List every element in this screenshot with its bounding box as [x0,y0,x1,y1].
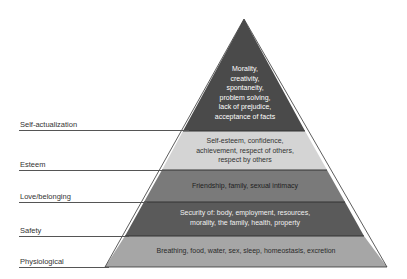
level-line-esteem [19,170,165,171]
level-line-love-belonging [19,202,147,203]
text-safety: Security of: body, employment, resources… [180,208,310,227]
text-love-belonging: Friendship, family, sexual intimacy [192,181,298,191]
text-esteem: Self-esteem, confidence, achievement, re… [196,136,294,165]
label-safety: Safety [20,226,41,235]
level-line-safety [19,236,129,237]
label-physiological: Physiological [20,257,64,266]
maslow-pyramid-diagram: Self-actualization Esteem Love/belonging… [0,0,407,279]
label-self-actualization: Self-actualization [20,120,77,129]
level-line-physiological [19,267,109,268]
text-physiological: Breathing, food, water, sex, sleep, home… [157,246,336,256]
text-self-actualization: Morality, creativity, spontaneity, probl… [215,64,275,121]
label-love-belonging: Love/belonging [20,192,71,201]
level-line-self-actualization [19,130,189,131]
label-esteem: Esteem [20,160,45,169]
